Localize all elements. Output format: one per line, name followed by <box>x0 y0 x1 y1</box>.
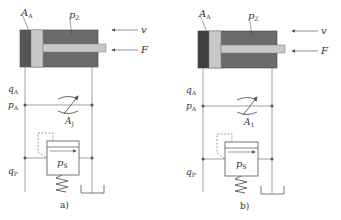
label-force: F <box>140 44 149 55</box>
label-velocity: v <box>321 25 327 36</box>
label-flow-pump: qP <box>8 166 18 177</box>
caption-b: b) <box>240 201 249 211</box>
piston <box>31 30 43 67</box>
label-velocity: v <box>141 24 147 35</box>
label-throttle-area: A1 <box>243 117 254 128</box>
cylinder-left-chamber <box>20 30 31 67</box>
piston-rod <box>221 45 285 53</box>
cylinder-left-chamber <box>198 31 209 68</box>
panel-b: AA pZ v F A1 qA pA pS qP b) <box>186 8 329 211</box>
label-throttle-area: AJ <box>64 116 75 128</box>
caption-a: a) <box>60 200 69 210</box>
label-flow-pump: qP <box>186 167 196 178</box>
panel-a: AA pZ v F AJ qA pA pS qP <box>8 7 149 210</box>
piston <box>209 31 221 68</box>
label-flow-a: qA <box>8 84 19 95</box>
label-pressure-z: pZ <box>248 10 259 22</box>
label-area-a: AA <box>198 8 211 20</box>
label-area-a: AA <box>20 7 33 19</box>
label-flow-a: qA <box>186 85 197 96</box>
label-pressure-a: pA <box>186 101 197 112</box>
label-force: F <box>320 45 329 56</box>
label-pressure-z: pZ <box>69 9 80 21</box>
label-pressure-a: pA <box>8 100 19 111</box>
piston-rod <box>43 44 106 52</box>
